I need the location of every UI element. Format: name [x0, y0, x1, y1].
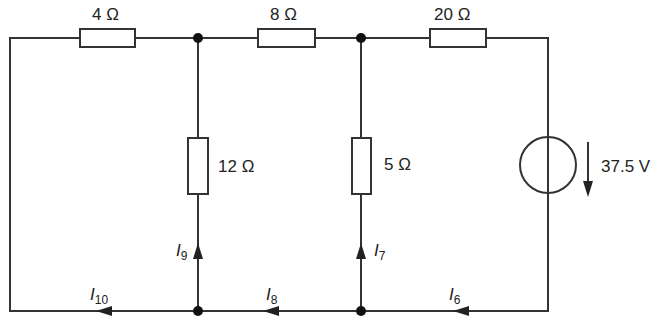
circuit-diagram: 4 Ω 8 Ω 20 Ω 12 Ω 5 Ω 37.5 V I10 I9 I8 I…: [0, 0, 663, 321]
label-current-i7: I7: [374, 241, 386, 263]
label-source-voltage: 37.5 V: [601, 157, 651, 176]
label-current-i10: I10: [90, 285, 108, 307]
resistor-8-ohm: [258, 29, 315, 47]
arrow-left-icon-i10: [96, 306, 112, 316]
resistor-20-ohm: [430, 29, 486, 47]
label-5-ohm: 5 Ω: [384, 155, 411, 174]
wires: [10, 38, 548, 311]
node-top-left: [193, 33, 203, 43]
label-20-ohm: 20 Ω: [434, 5, 470, 24]
label-12-ohm: 12 Ω: [218, 157, 254, 176]
voltage-source: 37.5 V: [520, 137, 651, 197]
arrow-up-icon-i7: [356, 243, 366, 259]
resistor-5-ohm: [352, 138, 371, 194]
left-outer-wire: [10, 38, 198, 311]
label-current-i6: I6: [449, 285, 461, 307]
arrow-down-icon: [583, 181, 593, 197]
resistor-4-ohm: [80, 29, 135, 47]
node-top-right: [356, 33, 366, 43]
label-4-ohm: 4 Ω: [92, 5, 119, 24]
arrow-left-icon-i8: [263, 306, 279, 316]
node-bottom-right: [356, 306, 366, 316]
label-current-i8: I8: [266, 285, 278, 307]
node-bottom-left: [193, 306, 203, 316]
arrow-up-icon-i9: [193, 243, 203, 259]
label-current-i9: I9: [176, 241, 188, 263]
label-8-ohm: 8 Ω: [270, 5, 297, 24]
right-outer-wire-top: [486, 38, 548, 137]
resistor-12-ohm: [188, 138, 208, 194]
arrow-left-icon-i6: [453, 306, 469, 316]
